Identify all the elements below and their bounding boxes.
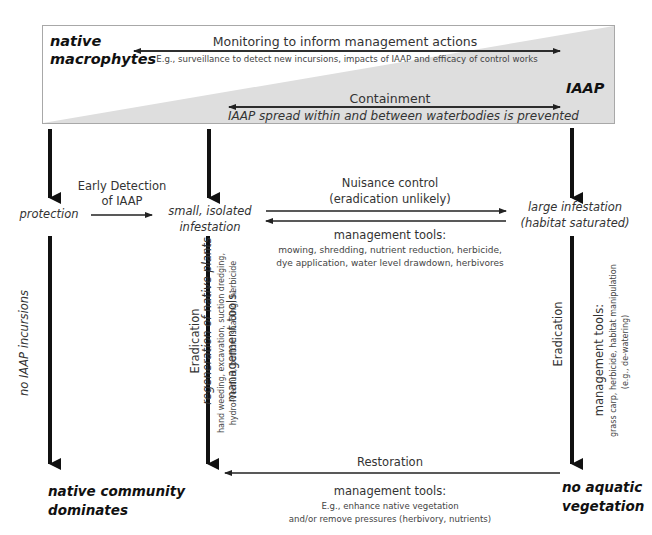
eradication-left-tools-line-1: hand weeding, excavation, suction dredgi… <box>216 238 228 448</box>
containment-detail: IAAP spread within and between waterbodi… <box>228 109 563 123</box>
eradication-right-tools-line-1: grass carp, herbicide, habitat manipulat… <box>608 267 620 437</box>
eradication-left-tools-line-2: hydro-venturi, bottom shading, herbicide <box>228 238 240 448</box>
node-native-community: native community dominates <box>48 482 185 520</box>
eradication-right-tools-list: grass carp, herbicide, habitat manipulat… <box>608 267 634 437</box>
nuisance-tools-label: management tools: <box>300 228 480 242</box>
early-detection-label: Early Detection of IAAP <box>76 179 168 209</box>
nuisance-tools-line-2: dye application, water level drawdown, h… <box>255 257 525 270</box>
no-incursions-label: no IAAP incursions <box>17 268 33 418</box>
native-macrophytes-line-1: native <box>50 32 156 50</box>
monitoring-title: Monitoring to inform management actions <box>200 34 490 49</box>
nuisance-tools-line-1: mowing, shredding, nutrient reduction, h… <box>255 244 525 257</box>
nuisance-control-label: Nuisance control (eradication unlikely) <box>300 175 480 207</box>
eradication-right-tools-line-2: (e.g., de-watering) <box>620 267 632 437</box>
restoration-tools-line-2: and/or remove pressures (herbivory, nutr… <box>260 513 520 526</box>
large-infestation-line-1: large infestation <box>510 199 640 215</box>
nuisance-tools-list: mowing, shredding, nutrient reduction, h… <box>255 244 525 270</box>
native-community-line-2: dominates <box>48 501 185 520</box>
iaap-label: IAAP <box>566 80 604 96</box>
containment-title: Containment <box>290 91 490 106</box>
restoration-tools-line-1: E.g., enhance native vegetation <box>260 500 520 513</box>
monitoring-detail: E.g., surveillance to detect new incursi… <box>132 54 562 64</box>
node-large-infestation: large infestation (habitat saturated) <box>510 199 640 231</box>
small-infestation-line-1: small, isolated <box>158 203 262 219</box>
eradication-right-title: Eradication <box>551 274 567 394</box>
node-protection: protection <box>8 207 90 221</box>
large-infestation-line-2: (habitat saturated) <box>510 215 640 231</box>
no-aquatic-line-1: no aquatic <box>562 478 644 497</box>
eradication-left-subtitle: regeneration of native plants <box>200 221 216 421</box>
nuisance-title-line-1: Nuisance control <box>300 175 480 191</box>
early-detection-line-1: Early Detection <box>76 179 168 194</box>
no-aquatic-line-2: vegetation <box>562 497 644 516</box>
native-community-line-1: native community <box>48 482 185 501</box>
restoration-title: Restoration <box>300 455 480 469</box>
node-no-aquatic-vegetation: no aquatic vegetation <box>562 478 644 516</box>
restoration-tools-list: E.g., enhance native vegetation and/or r… <box>260 500 520 526</box>
eradication-left-tools-list: hand weeding, excavation, suction dredgi… <box>216 238 242 448</box>
early-detection-line-2: of IAAP <box>76 194 168 209</box>
restoration-tools-label: management tools: <box>290 484 490 498</box>
nuisance-title-line-2: (eradication unlikely) <box>300 191 480 207</box>
eradication-right-tools-label: management tools: <box>592 290 608 430</box>
